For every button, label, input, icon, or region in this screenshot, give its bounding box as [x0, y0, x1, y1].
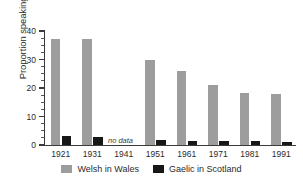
legend-swatch-icon	[153, 165, 164, 173]
bar-welsh-in-wales	[240, 93, 250, 145]
bar-gaelic-in-scotland	[251, 141, 261, 145]
legend-label: Welsh in Wales	[77, 164, 139, 174]
bar-group	[76, 31, 108, 145]
legend-entry: Welsh in Wales	[61, 164, 139, 174]
legend-label: Gaelic in Scotland	[169, 164, 242, 174]
chart-figure: Proportion speaking language (%) 0102030…	[0, 0, 303, 183]
chart-legend: Welsh in WalesGaelic in Scotland	[0, 164, 303, 174]
bar-welsh-in-wales	[271, 94, 281, 145]
bar-welsh-in-wales	[208, 85, 218, 145]
no-data-annotation: no data	[108, 136, 133, 145]
y-tick-label: 30	[27, 55, 36, 65]
bar-group	[202, 31, 234, 145]
bar-gaelic-in-scotland	[282, 142, 292, 145]
x-tick-label: 1921	[51, 149, 70, 159]
x-tick-label: 1931	[83, 149, 102, 159]
bar-welsh-in-wales	[145, 60, 155, 145]
bar-gaelic-in-scotland	[62, 136, 72, 145]
x-tick-label: 1961	[177, 149, 196, 159]
bar-gaelic-in-scotland	[156, 140, 166, 145]
y-tick-label: 0	[31, 140, 36, 150]
bar-group	[170, 31, 202, 145]
x-tick-label: 1991	[272, 149, 291, 159]
y-tick-label: 40	[27, 26, 36, 36]
bar-gaelic-in-scotland	[188, 141, 198, 145]
y-tick-label: 10	[27, 112, 36, 122]
x-tick-label: 1971	[209, 149, 228, 159]
y-axis-ticks: 010203040	[0, 0, 44, 183]
legend-entry: Gaelic in Scotland	[153, 164, 242, 174]
x-tick-label: 1981	[240, 149, 259, 159]
bar-group	[107, 31, 139, 145]
bar-group	[233, 31, 265, 145]
bar-welsh-in-wales	[82, 39, 92, 145]
bar-group	[139, 31, 171, 145]
bar-group	[44, 31, 76, 145]
x-tick-label: 1951	[146, 149, 165, 159]
legend-swatch-icon	[61, 165, 72, 173]
bar-welsh-in-wales	[51, 39, 61, 145]
x-tick-label: 1941	[114, 149, 133, 159]
bar-welsh-in-wales	[177, 71, 187, 145]
bar-group	[265, 31, 297, 145]
plot-area	[44, 31, 296, 145]
bar-gaelic-in-scotland	[93, 137, 103, 145]
y-tick-label: 20	[27, 83, 36, 93]
bar-gaelic-in-scotland	[219, 141, 229, 145]
